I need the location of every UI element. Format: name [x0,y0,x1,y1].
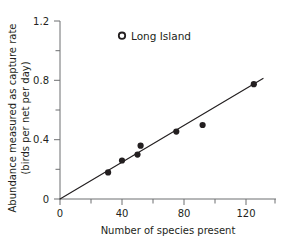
data-point [200,122,206,128]
chart-canvas: 0 0.4 0.8 1.2 0 40 80 120 [0,0,287,243]
x-tick-label-40: 40 [116,208,129,219]
y-axis-tick-labels: 0 0.4 0.8 1.2 [33,16,49,205]
x-tick-label-120: 120 [236,208,255,219]
y-axis-ticks [54,21,60,199]
x-tick-label-80: 80 [178,208,191,219]
y-tick-label-0-4: 0.4 [33,134,49,145]
y-tick-label-0: 0 [43,194,49,205]
data-point [134,152,140,158]
data-point [251,81,257,87]
x-tick-label-0: 0 [57,208,63,219]
data-point [138,143,144,149]
x-axis-tick-labels: 0 40 80 120 [57,208,256,219]
long-island-annotation: Long Island [131,30,191,42]
scatter-plot-figure: 0 0.4 0.8 1.2 0 40 80 120 [0,0,287,243]
regression-trendline [60,78,263,199]
data-point [105,169,111,175]
data-point [119,157,125,163]
x-axis-title: Number of species present [101,225,236,236]
y-axis-title-line1: Abundance measured as capture rate [7,24,18,213]
x-axis-ticks [60,199,275,205]
y-tick-label-0-8: 0.8 [33,75,49,86]
open-circle-marker [119,33,125,39]
data-point [173,129,179,135]
y-tick-label-1-2: 1.2 [33,16,49,27]
y-axis-title-line2: (birds per net per day) [20,61,31,174]
axis-lines [60,21,276,199]
data-point-long-island [119,33,125,39]
